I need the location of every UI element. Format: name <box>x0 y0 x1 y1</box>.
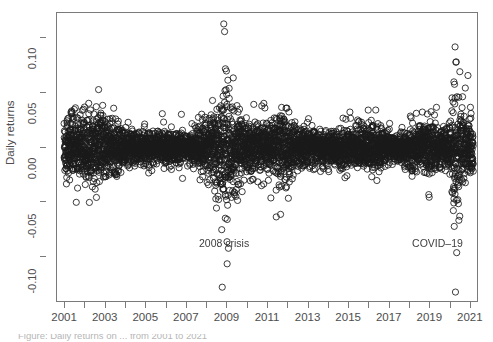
y-tick-mark <box>40 147 46 148</box>
x-tick-mark <box>450 302 451 308</box>
x-tick-label: 2019 <box>417 311 443 324</box>
x-tick-mark <box>105 302 106 308</box>
x-tick-mark <box>226 302 227 308</box>
x-tick-mark <box>470 302 471 308</box>
annotation-2008-crisis: 2008 crisis <box>199 238 249 249</box>
x-tick-label: 2003 <box>92 311 118 324</box>
x-tick-mark <box>125 302 126 308</box>
x-tick-mark <box>84 302 85 308</box>
y-tick-label: 0.00 <box>27 157 38 178</box>
x-tick-label: 2017 <box>376 311 402 324</box>
annotation-covid-19: COVID–19 <box>412 238 463 249</box>
x-tick-mark <box>429 302 430 308</box>
y-tick-mark <box>40 201 46 202</box>
x-tick-label: 2005 <box>132 311 158 324</box>
x-tick-mark <box>206 302 207 308</box>
figure-caption-text: Figure: Daily returns on ... from 2001 t… <box>18 334 207 341</box>
x-tick-mark <box>64 302 65 308</box>
y-tick-mark <box>40 256 46 257</box>
y-tick-label: 0.10 <box>27 48 38 69</box>
x-tick-mark <box>247 302 248 308</box>
figure-caption-clipped: Figure: Daily returns on ... from 2001 t… <box>0 334 493 342</box>
x-tick-label: 2015 <box>335 311 361 324</box>
plot-area: 2008 crisis COVID–19 <box>56 12 478 302</box>
x-tick-label: 2001 <box>51 311 77 324</box>
y-tick-label: -0.05 <box>27 214 38 239</box>
y-tick-mark <box>40 37 46 38</box>
x-tick-mark <box>328 302 329 308</box>
x-tick-label: 2021 <box>457 311 483 324</box>
y-axis: 0.100.050.00-0.05-0.10 <box>0 0 56 342</box>
x-tick-label: 2007 <box>173 311 199 324</box>
y-tick-label: -0.10 <box>27 269 38 294</box>
figure-daily-returns-scatter: Daily returns 0.100.050.00-0.05-0.10 200… <box>0 0 493 342</box>
x-tick-mark <box>287 302 288 308</box>
x-tick-mark <box>368 302 369 308</box>
x-tick-label: 2009 <box>214 311 240 324</box>
x-tick-mark <box>348 302 349 308</box>
x-tick-label: 2013 <box>295 311 321 324</box>
scatter-points-layer <box>57 13 478 302</box>
y-tick-label: 0.05 <box>27 103 38 124</box>
y-tick-mark <box>40 92 46 93</box>
x-tick-mark <box>267 302 268 308</box>
x-tick-mark <box>186 302 187 308</box>
x-tick-label: 2011 <box>255 311 280 324</box>
x-tick-mark <box>308 302 309 308</box>
x-tick-mark <box>389 302 390 308</box>
x-tick-mark <box>166 302 167 308</box>
x-tick-mark <box>409 302 410 308</box>
x-tick-mark <box>145 302 146 308</box>
